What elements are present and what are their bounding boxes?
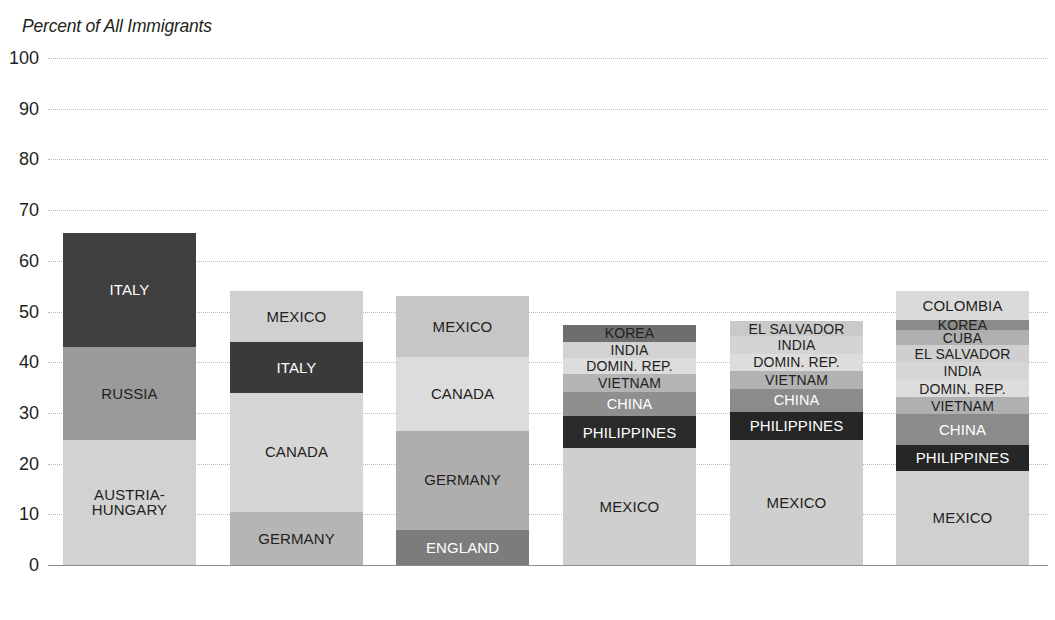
bar-1991-2000[interactable]: MEXICOPHILIPPINESCHINAVIETNAMDOMIN. REP.…: [730, 298, 863, 565]
bar-segment[interactable]: RUSSIA: [63, 347, 196, 440]
bar-segment-label: INDIA: [611, 343, 649, 357]
bar-segment[interactable]: CANADA: [396, 357, 529, 431]
bar-segment-label: KOREA: [938, 318, 988, 332]
bar-segment-label: MEXICO: [767, 495, 827, 511]
immigration-stacked-bar-chart: Percent of All Immigrants 01020304050607…: [0, 0, 1055, 620]
bar-segment[interactable]: VIETNAM: [896, 397, 1029, 414]
bar-segment[interactable]: ENGLAND: [396, 530, 529, 565]
gridline-100: [48, 58, 1048, 59]
gridline-0: [48, 565, 1048, 566]
bar-segment-label: GERMANY: [424, 472, 501, 488]
bar-segment[interactable]: CHINA: [563, 392, 696, 417]
bar-segment[interactable]: INDIA: [896, 362, 1029, 380]
bar-segment[interactable]: PHILIPPINES: [730, 412, 863, 440]
bar-segment[interactable]: CANADA: [230, 393, 363, 512]
bar-segment[interactable]: CHINA: [730, 389, 863, 412]
bar-segment[interactable]: PHILIPPINES: [563, 416, 696, 448]
y-axis-tick-label: 0: [0, 556, 39, 574]
bar-segment-label: PHILIPPINES: [916, 450, 1010, 466]
bar-segment[interactable]: DOMIN. REP.: [896, 380, 1029, 397]
bar-1901-1910[interactable]: AUSTRIA- HUNGARYRUSSIAITALY: [63, 233, 196, 565]
bar-segment-label: CHINA: [939, 422, 986, 438]
bar-segment-label: INDIA: [778, 338, 816, 352]
bar-segment[interactable]: CUBA: [896, 330, 1029, 345]
bar-segment-label: AUSTRIA- HUNGARY: [92, 487, 167, 518]
y-axis-tick-label: 30: [0, 404, 39, 422]
bar-segment-label: COLOMBIA: [923, 298, 1003, 314]
y-axis-tick-label: 90: [0, 100, 39, 118]
bar-segment-label: DOMIN. REP.: [919, 382, 1005, 396]
bar-segment[interactable]: MEXICO: [230, 291, 363, 342]
y-axis-tick-label: 80: [0, 150, 39, 168]
bar-1921-1930[interactable]: GERMANYCANADAITALYMEXICO: [230, 291, 363, 565]
y-axis-tick-label: 50: [0, 303, 39, 321]
bar-segment[interactable]: CHINA: [896, 414, 1029, 444]
chart-axis-title: Percent of All Immigrants: [22, 16, 212, 37]
bar-segment[interactable]: GERMANY: [396, 431, 529, 530]
bar-segment-label: DOMIN. REP.: [586, 359, 672, 373]
bar-segment[interactable]: MEXICO: [730, 440, 863, 565]
y-axis-tick-label: 10: [0, 505, 39, 523]
bar-segment-label: ENGLAND: [426, 540, 499, 556]
bar-segment-label: EL SALVADOR: [749, 322, 845, 336]
bar-segment[interactable]: EL SALVADOR: [896, 345, 1029, 362]
bar-segment[interactable]: GERMANY: [230, 512, 363, 565]
bar-segment-label: EL SALVADOR: [915, 347, 1011, 361]
bar-1951-1960[interactable]: ENGLANDGERMANYCANADAMEXICO: [396, 296, 529, 565]
bar-segment-label: ITALY: [277, 360, 317, 376]
bar-2001-2010[interactable]: MEXICOPHILIPPINESCHINAVIETNAMDOMIN. REP.…: [896, 291, 1029, 565]
bar-segment-label: PHILIPPINES: [583, 425, 677, 441]
bar-segment[interactable]: INDIA: [730, 336, 863, 353]
bar-segment[interactable]: KOREA: [563, 325, 696, 342]
bar-segment[interactable]: INDIA: [563, 342, 696, 358]
plot-area: 0102030405060708090100AUSTRIA- HUNGARYRU…: [48, 58, 1048, 565]
bar-segment-label: MEXICO: [433, 319, 493, 335]
bar-segment[interactable]: MEXICO: [396, 296, 529, 357]
bar-segment[interactable]: DOMIN. REP.: [730, 354, 863, 371]
bar-segment[interactable]: MEXICO: [563, 448, 696, 565]
bar-segment[interactable]: PHILIPPINES: [896, 445, 1029, 471]
bar-segment-label: DOMIN. REP.: [753, 355, 839, 369]
bar-segment[interactable]: VIETNAM: [730, 371, 863, 389]
bar-segment[interactable]: EL SALVADOR: [730, 321, 863, 336]
bar-segment-label: CHINA: [607, 397, 653, 412]
bar-segment-label: MEXICO: [933, 510, 993, 526]
bar-segment-label: CUBA: [943, 331, 982, 345]
bar-segment[interactable]: COLOMBIA: [896, 291, 1029, 319]
bar-segment-label: ITALY: [110, 282, 150, 298]
bar-segment-label: KOREA: [605, 326, 655, 340]
bar-segment[interactable]: DOMIN. REP.: [563, 358, 696, 374]
gridline-60: [48, 261, 1048, 262]
bar-segment[interactable]: KOREA: [896, 320, 1029, 331]
y-axis-tick-label: 20: [0, 455, 39, 473]
gridline-80: [48, 159, 1048, 160]
bar-segment[interactable]: MEXICO: [896, 471, 1029, 565]
bar-segment-label: MEXICO: [600, 499, 660, 515]
bar-segment-label: VIETNAM: [765, 373, 828, 387]
bar-segment-label: CANADA: [265, 444, 328, 460]
bar-1981-1990[interactable]: MEXICOPHILIPPINESCHINAVIETNAMDOMIN. REP.…: [563, 309, 696, 565]
bar-segment-label: RUSSIA: [101, 386, 157, 402]
bar-segment[interactable]: ITALY: [230, 342, 363, 393]
bar-segment[interactable]: AUSTRIA- HUNGARY: [63, 440, 196, 565]
bar-segment-label: VIETNAM: [598, 376, 661, 390]
y-axis-tick-label: 100: [0, 49, 39, 67]
gridline-90: [48, 109, 1048, 110]
bar-segment[interactable]: ITALY: [63, 233, 196, 347]
y-axis-tick-label: 60: [0, 252, 39, 270]
bar-segment-label: VIETNAM: [931, 399, 994, 413]
y-axis-tick-label: 70: [0, 201, 39, 219]
bar-segment-label: PHILIPPINES: [750, 418, 844, 434]
bar-segment-label: GERMANY: [258, 531, 335, 547]
bar-segment-label: INDIA: [944, 364, 982, 378]
bar-segment-label: CANADA: [431, 386, 494, 402]
bar-segment-label: MEXICO: [267, 309, 327, 325]
bar-segment-label: CHINA: [774, 393, 820, 408]
gridline-70: [48, 210, 1048, 211]
bar-segment[interactable]: VIETNAM: [563, 374, 696, 391]
y-axis-tick-label: 40: [0, 353, 39, 371]
